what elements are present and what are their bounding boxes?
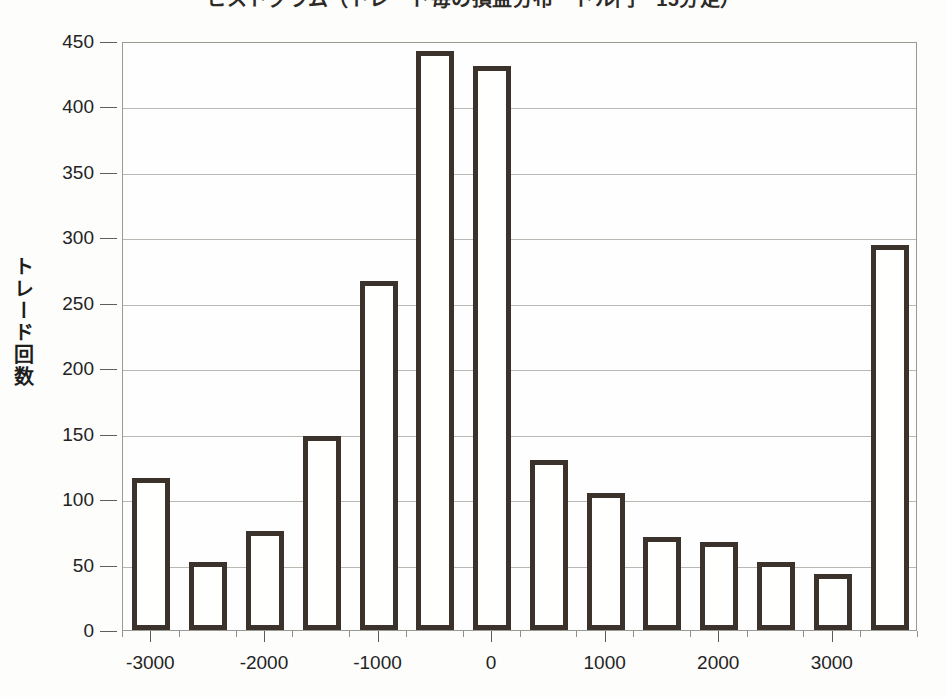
bar [473, 66, 511, 630]
x-tick-mark [378, 631, 379, 642]
bar [587, 493, 625, 630]
x-tick-label: -2000 [240, 652, 289, 674]
y-tick-mark [100, 566, 117, 567]
x-tick-minor [917, 631, 918, 637]
gridline [123, 305, 916, 306]
y-tick-mark [100, 369, 117, 370]
bar [416, 51, 454, 630]
x-tick-mark [832, 631, 833, 642]
gridline [123, 174, 916, 175]
chart-title-strip: ヒストグラム（トレード毎の損益分布 ドル円 15分足） [0, 0, 947, 13]
bar [757, 562, 795, 630]
bar [189, 562, 227, 630]
y-tick-label: 350 [62, 162, 94, 184]
y-tick-label: 100 [62, 489, 94, 511]
x-tick-minor [463, 631, 464, 637]
x-tick-label: -1000 [353, 652, 402, 674]
x-tick-minor [236, 631, 237, 637]
y-tick-label: 400 [62, 96, 94, 118]
gridline [123, 108, 916, 109]
x-tick-mark [718, 631, 719, 642]
y-tick-label: 450 [62, 31, 94, 53]
x-tick-mark [150, 631, 151, 642]
y-tick-mark [100, 304, 117, 305]
gridline [123, 239, 916, 240]
bar [814, 574, 852, 630]
bar [700, 542, 738, 630]
x-tick-minor [803, 631, 804, 637]
y-tick-label: 250 [62, 293, 94, 315]
x-tick-minor [349, 631, 350, 637]
y-tick-mark [100, 238, 117, 239]
x-tick-mark [264, 631, 265, 642]
bar [871, 245, 909, 630]
x-tick-label: 3000 [811, 652, 853, 674]
plot-area [122, 42, 917, 631]
bar [360, 281, 398, 630]
gridline [123, 501, 916, 502]
x-tick-label: 2000 [697, 652, 739, 674]
y-tick-mark [100, 173, 117, 174]
gridline [123, 370, 916, 371]
bar [530, 460, 568, 630]
gridline [123, 567, 916, 568]
y-tick-mark [100, 107, 117, 108]
bar [246, 531, 284, 630]
x-axis: -3000-2000-10000100020003000 [122, 631, 917, 697]
x-tick-label: 0 [486, 652, 497, 674]
y-tick-mark [100, 500, 117, 501]
y-tick-mark [100, 42, 117, 43]
y-tick-label: 50 [73, 555, 94, 577]
y-tick-label: 200 [62, 358, 94, 380]
y-tick-label: 0 [83, 620, 94, 642]
gridline [123, 436, 916, 437]
x-tick-mark [491, 631, 492, 642]
x-tick-minor [747, 631, 748, 637]
x-tick-minor [633, 631, 634, 637]
x-tick-minor [520, 631, 521, 637]
x-tick-minor [179, 631, 180, 637]
y-tick-mark [100, 631, 117, 632]
y-axis: 050100150200250300350400450 [0, 0, 122, 697]
x-tick-minor [406, 631, 407, 637]
y-tick-label: 150 [62, 424, 94, 446]
x-tick-minor [122, 631, 123, 637]
bar [132, 478, 170, 630]
x-tick-minor [690, 631, 691, 637]
x-tick-mark [605, 631, 606, 642]
chart-title: ヒストグラム（トレード毎の損益分布 ドル円 15分足） [0, 0, 947, 12]
bar [643, 537, 681, 630]
bar [303, 436, 341, 630]
x-tick-minor [576, 631, 577, 637]
x-tick-label: -3000 [126, 652, 175, 674]
chart-page: ヒストグラム（トレード毎の損益分布 ドル円 15分足） トレード回数 05010… [0, 0, 947, 697]
x-tick-label: 1000 [584, 652, 626, 674]
x-tick-minor [860, 631, 861, 637]
x-tick-minor [292, 631, 293, 637]
y-tick-mark [100, 435, 117, 436]
y-tick-label: 300 [62, 227, 94, 249]
